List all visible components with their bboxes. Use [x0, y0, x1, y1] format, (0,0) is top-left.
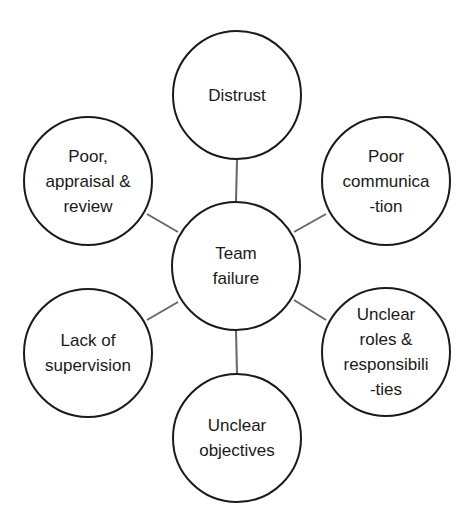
node-label: Poor, appraisal & review	[45, 144, 130, 219]
connector-poor-appraisal	[147, 214, 178, 232]
connector-unclear-objectives	[236, 331, 237, 373]
connector-distrust	[236, 160, 237, 201]
node-unclear-objectives: Unclear objectives	[172, 373, 302, 503]
node-poor-communication: Poor communica -tion	[321, 116, 451, 246]
team-failure-diagram: Team failure Distrust Poor communica -ti…	[0, 0, 475, 531]
node-label: Distrust	[208, 83, 266, 108]
connector-unclear-roles	[294, 300, 326, 320]
node-label: Unclear roles & responsibili -ties	[343, 302, 428, 402]
node-distrust: Distrust	[172, 30, 302, 160]
node-poor-appraisal: Poor, appraisal & review	[23, 116, 153, 246]
connector-poor-communication	[294, 214, 326, 232]
node-lack-of-supervision: Lack of supervision	[23, 288, 153, 418]
connector-lack-of-supervision	[147, 302, 178, 320]
center-node-team-failure: Team failure	[171, 201, 301, 331]
node-label: Unclear objectives	[199, 413, 275, 463]
node-label: Poor communica -tion	[343, 144, 430, 219]
node-label: Lack of supervision	[45, 328, 131, 378]
node-unclear-roles: Unclear roles & responsibili -ties	[321, 287, 451, 417]
center-label: Team failure	[213, 241, 259, 291]
